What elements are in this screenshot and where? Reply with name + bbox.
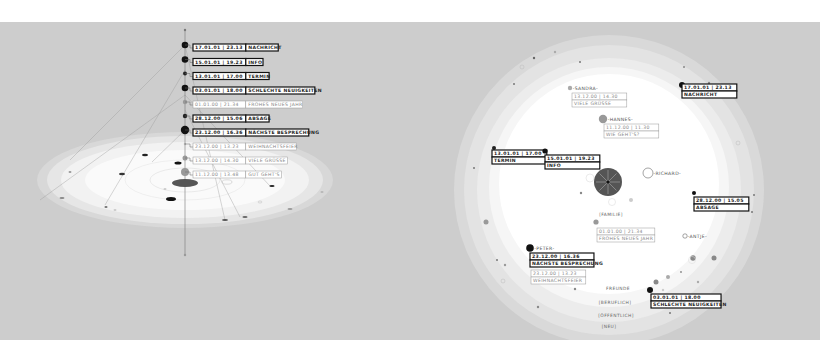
message-subject: INFO	[547, 163, 561, 168]
contact-antje[interactable]: -ANTJE-	[683, 234, 707, 239]
visualization-canvas: 17.01.01 | 23.13NACHRICHT15.01.01 | 19.2…	[0, 22, 820, 340]
radial-message[interactable]: 23.12.00 | 16.36NÄCHSTE BESPRECHUNG	[530, 253, 603, 267]
message-subject: VIELE GRÜSSE	[248, 157, 285, 163]
message-subject: FROHES NEUES JAHR	[248, 102, 303, 107]
timeline-message[interactable]: 23.12.00 | 16.36NÄCHSTE BESPRECHUNG	[181, 126, 319, 136]
timeline-hub	[172, 179, 198, 187]
message-subject: SCHLECHTE NEUIGKEITEN	[248, 88, 322, 93]
message-node-icon	[542, 148, 547, 153]
message-node-icon	[492, 146, 496, 150]
ring-label: [BERUFLICH]	[599, 300, 632, 305]
radial-hub	[594, 168, 622, 196]
message-node-icon	[593, 219, 598, 224]
radial-message[interactable]: 13.12.00 | 14.30VIELE GRÜSSE	[572, 93, 627, 107]
message-node-icon	[692, 191, 696, 195]
ring-label: FREUNDE	[606, 286, 630, 291]
message-subject: TERMIN	[248, 74, 270, 79]
timeline-message[interactable]: 13.12.00 | 14.30VIELE GRÜSSE	[183, 156, 288, 165]
message-subject: WIE GEHT'S?	[606, 132, 640, 137]
visualization-svg: 17.01.01 | 23.13NACHRICHT15.01.01 | 19.2…	[0, 22, 820, 340]
radial-view: -SANDRA--HANNES--RICHARD--ANTJE--PETER-1…	[454, 35, 764, 340]
message-subject: INFO	[248, 60, 262, 65]
message-subject: NACHRICHT	[248, 45, 282, 50]
contact-node-icon	[526, 244, 534, 252]
ring-label: [FAMILIE]	[599, 212, 623, 217]
message-subject: SCHLECHTE NEUIGKEITEN	[653, 302, 727, 307]
timeline-message[interactable]: 17.01.01 | 23.13NACHRICHT	[182, 42, 282, 51]
message-subject: FROHES NEUES JAHR	[599, 236, 654, 241]
radial-message[interactable]: 11.12.00 | 11.30WIE GEHT'S?	[604, 124, 659, 138]
contact-node-icon	[599, 115, 607, 123]
contact-name: -RICHARD-	[654, 171, 682, 176]
message-subject: NÄCHSTE BESPRECHUNG	[532, 260, 603, 266]
ring-label: [NEU]	[602, 324, 617, 329]
contact-node-icon	[643, 168, 653, 178]
message-subject: NACHRICHT	[684, 92, 718, 97]
message-subject: NÄCHSTE BESPRECHUNG	[248, 129, 319, 135]
contact-node-icon	[568, 86, 572, 90]
axis-bottom-tick	[184, 254, 186, 256]
timeline-view: 17.01.01 | 23.13NACHRICHT15.01.01 | 19.2…	[37, 29, 333, 256]
message-node-icon	[647, 287, 653, 293]
message-subject: WEIHNACHTSFEIER	[533, 278, 583, 283]
message-subject: ABSAGE	[248, 116, 271, 121]
timeline-message[interactable]: 28.12.00 | 15.06ABSAGE	[183, 114, 271, 122]
timeline-message[interactable]: 13.01.01 | 17.00TERMIN	[183, 72, 270, 80]
timeline-message[interactable]: 15.01.01 | 19.23INFO	[182, 56, 263, 65]
timeline-message[interactable]: 01.01.00 | 21.34FROHES NEUES JAHR	[183, 100, 303, 108]
radial-message[interactable]: 23.12.00 | 13.23WEIHNACHTSFEIER	[531, 270, 586, 284]
radial-message[interactable]: 17.01.01 | 23.13NACHRICHT	[679, 82, 737, 98]
message-subject: WEIHNACHTSFEIER	[248, 144, 298, 149]
timeline-message[interactable]: 23.12.00 | 13.23WEIHNACHTSFEIER	[184, 143, 298, 150]
message-subject: GUT GEHT'S	[248, 172, 280, 177]
contact-name: -ANTJE-	[688, 234, 707, 239]
contact-sandra[interactable]: -SANDRA-	[568, 86, 598, 91]
message-subject: TERMIN	[494, 158, 516, 163]
axis-top-tick	[184, 29, 186, 31]
ring-label: [ÖFFENTLICH]	[598, 313, 634, 318]
message-subject: VIELE GRÜSSE	[574, 100, 611, 106]
contact-name: -HANNES-	[608, 117, 633, 122]
contact-name: -PETER-	[534, 246, 554, 251]
contact-node-icon	[683, 234, 687, 238]
message-subject: ABSAGE	[696, 205, 719, 210]
timeline-message[interactable]: 03.01.01 | 18.00SCHLECHTE NEUIGKEITEN	[182, 85, 322, 94]
contact-name: -SANDRA-	[573, 86, 598, 91]
